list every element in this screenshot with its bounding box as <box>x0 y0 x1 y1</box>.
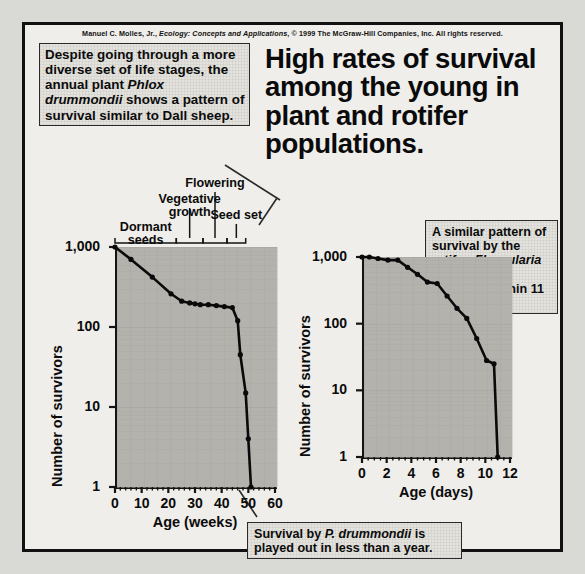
data-point-marker <box>375 256 380 261</box>
data-point-marker <box>464 316 469 321</box>
data-point-marker <box>445 293 450 298</box>
y-axis-tick-label: 1,000 <box>287 248 347 264</box>
data-point-marker <box>385 258 390 263</box>
data-point-marker <box>425 280 430 285</box>
y-axis-tick-label: 1 <box>287 448 347 464</box>
data-series-line <box>362 257 498 457</box>
x-axis-title: Age (days) <box>388 484 484 500</box>
y-axis-tick-label: 10 <box>287 381 347 397</box>
data-point-marker <box>435 281 440 286</box>
slide-frame: Manuel C. Molles, Jr., Ecology: Concepts… <box>22 22 563 552</box>
data-point-marker <box>367 254 372 259</box>
y-axis-tick-label: 100 <box>287 315 347 331</box>
data-point-marker <box>395 258 400 263</box>
data-point-marker <box>454 306 459 311</box>
y-axis-title: Number of survivors <box>297 315 313 457</box>
data-point-marker <box>415 272 420 277</box>
data-point-marker <box>495 454 500 459</box>
data-point-marker <box>474 336 479 341</box>
data-point-marker <box>491 361 496 366</box>
data-point-marker <box>484 358 489 363</box>
data-point-marker <box>359 254 364 259</box>
x-axis-tick-label: 12 <box>490 465 530 481</box>
data-point-marker <box>405 265 410 270</box>
